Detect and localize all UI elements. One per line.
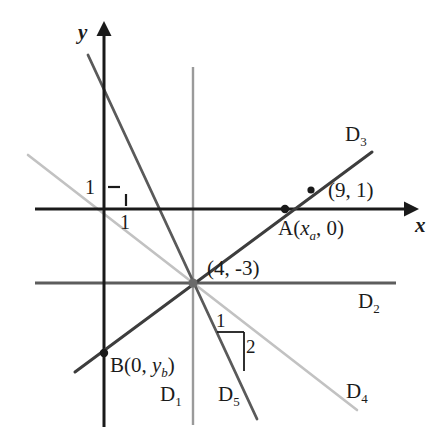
point-A — [281, 205, 289, 213]
y-axis-label: y — [78, 22, 87, 43]
line-label-D3: D3 — [345, 124, 367, 148]
y-axis-tick-label: 1 — [85, 177, 95, 197]
x-axis-label: x — [415, 215, 426, 236]
slope-rise-label: 2 — [246, 337, 256, 356]
x-axis-tick-label: 1 — [120, 212, 130, 232]
point-label-B: B(0, yb) — [110, 355, 175, 379]
point-label-A-tail: , 0) — [316, 216, 344, 240]
point-label-intersection: (4, -3) — [207, 258, 259, 279]
point-label-A: A(xa, 0) — [278, 218, 344, 242]
point-label-B-tail: ) — [168, 353, 175, 377]
line-label-D2: D2 — [358, 291, 380, 315]
point-B — [100, 349, 108, 357]
point-intersection-4-neg3 — [188, 278, 197, 287]
point-label-B-var: yb — [152, 353, 168, 377]
point-label-A-head: A( — [278, 216, 300, 240]
line-label-D5: D5 — [218, 384, 240, 408]
line-label-D4: D4 — [346, 381, 368, 405]
line-label-D1: D1 — [160, 384, 182, 408]
point-9-1 — [307, 186, 314, 193]
point-label-9-1: (9, 1) — [328, 180, 374, 201]
point-label-A-var: xa — [300, 216, 316, 240]
coordinate-plane-figure — [0, 0, 443, 436]
slope-run-label: 1 — [216, 311, 226, 330]
point-label-B-head: B(0, — [110, 353, 152, 377]
